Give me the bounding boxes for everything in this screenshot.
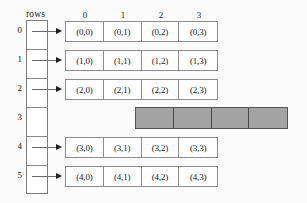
row-index-label-5: 5 — [8, 170, 22, 180]
data-cell: (0,2) — [142, 22, 180, 41]
row-index-label-3: 3 — [8, 112, 22, 122]
pointer-array — [26, 20, 48, 194]
data-cell: (2,2) — [142, 80, 180, 99]
pointer-arrow-line-1 — [32, 60, 56, 61]
data-cell: (3,0) — [66, 138, 104, 157]
column-header-3: 3 — [180, 10, 218, 20]
data-cell: (0,3) — [179, 22, 217, 41]
column-header-0: 0 — [66, 10, 104, 20]
row-index-label-4: 4 — [8, 141, 22, 151]
data-cell: (4,3) — [179, 167, 217, 186]
pointer-arrow-line-4 — [32, 147, 56, 148]
row-index-label-1: 1 — [8, 54, 22, 64]
data-row: (4,0) (4,1) (4,2) (4,3) — [65, 166, 218, 187]
data-cell-unallocated — [136, 108, 174, 128]
data-cell: (3,2) — [142, 138, 180, 157]
data-cell: (4,1) — [104, 167, 142, 186]
pointer-cell-4[interactable] — [27, 137, 47, 166]
data-row: (3,0) (3,1) (3,2) (3,3) — [65, 137, 218, 158]
pointer-cell-5[interactable] — [27, 166, 47, 193]
data-cell: (1,2) — [142, 51, 180, 70]
data-cell: (2,0) — [66, 80, 104, 99]
pointer-arrow-head-0 — [56, 28, 62, 34]
data-cell: (1,0) — [66, 51, 104, 70]
row-index-label-2: 2 — [8, 83, 22, 93]
pointer-arrow-line-0 — [32, 31, 56, 32]
data-cell: (1,1) — [104, 51, 142, 70]
data-cell: (4,2) — [142, 167, 180, 186]
data-row: (0,0) (0,1) (0,2) (0,3) — [65, 21, 218, 42]
pointer-arrow-head-5 — [56, 173, 62, 179]
data-cell: (0,1) — [104, 22, 142, 41]
data-cell-unallocated — [212, 108, 250, 128]
data-cell: (3,3) — [179, 138, 217, 157]
pointer-arrow-line-2 — [32, 89, 56, 90]
pointer-array-label: rows — [26, 9, 45, 19]
diagram-canvas: rows 0 1 2 3 0 1 2 3 4 5 (0,0) (0,1) (0,… — [0, 0, 307, 203]
pointer-cell-2[interactable] — [27, 79, 47, 108]
pointer-cell-1[interactable] — [27, 50, 47, 79]
column-header-2: 2 — [142, 10, 180, 20]
data-cell: (3,1) — [104, 138, 142, 157]
data-cell: (1,3) — [179, 51, 217, 70]
pointer-arrow-head-4 — [56, 144, 62, 150]
pointer-cell-0[interactable] — [27, 21, 47, 50]
pointer-arrow-line-5 — [32, 176, 56, 177]
data-row: (2,0) (2,1) (2,2) (2,3) — [65, 79, 218, 100]
data-cell: (2,3) — [179, 80, 217, 99]
data-cell-unallocated — [174, 108, 212, 128]
data-row: (1,0) (1,1) (1,2) (1,3) — [65, 50, 218, 71]
pointer-arrow-head-1 — [56, 57, 62, 63]
data-cell: (0,0) — [66, 22, 104, 41]
data-row-unallocated — [135, 107, 288, 129]
data-cell: (4,0) — [66, 167, 104, 186]
data-cell: (2,1) — [104, 80, 142, 99]
row-index-label-0: 0 — [8, 25, 22, 35]
pointer-cell-3-null[interactable] — [27, 108, 47, 137]
data-cell-unallocated — [249, 108, 287, 128]
column-header-1: 1 — [104, 10, 142, 20]
pointer-arrow-head-2 — [56, 86, 62, 92]
